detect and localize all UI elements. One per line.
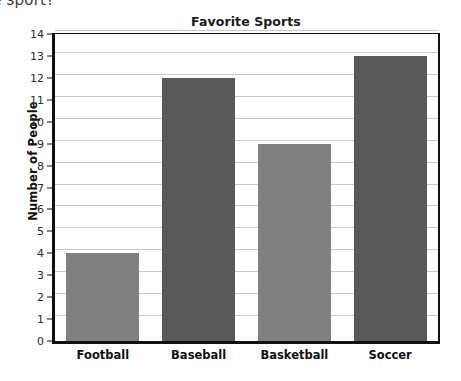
y-axis-tick-label: 1 [37, 313, 44, 326]
y-axis-tick-label: 2 [37, 291, 44, 304]
y-axis-tick-label: 14 [30, 28, 44, 41]
x-axis-category-label: Baseball [171, 348, 226, 362]
y-axis-tick-label: 6 [37, 203, 44, 216]
y-axis-tick-label: 8 [37, 159, 44, 172]
y-axis-ticks: 01234567891011121314 [0, 33, 52, 344]
bar [354, 56, 427, 341]
y-axis-tick-label: 11 [30, 93, 44, 106]
y-axis-tick-label: 3 [37, 269, 44, 282]
y-axis-tick-label: 13 [30, 49, 44, 62]
y-axis-tick-label: 5 [37, 225, 44, 238]
bar [162, 78, 235, 341]
bar-chart-figure: Favorite Sports Number of People 0123456… [0, 0, 461, 381]
gridline [55, 30, 438, 31]
bar [258, 144, 331, 341]
y-axis-tick-label: 12 [30, 71, 44, 84]
y-axis-tick-label: 9 [37, 137, 44, 150]
x-axis-category-label: Soccer [368, 348, 411, 362]
x-axis-category-label: Football [77, 348, 130, 362]
x-axis-labels: FootballBaseballBasketballSoccer [52, 348, 440, 372]
y-axis-tick-label: 10 [30, 115, 44, 128]
chart-title: Favorite Sports [52, 14, 440, 29]
x-axis-category-label: Basketball [260, 348, 328, 362]
y-axis-tick-label: 0 [37, 335, 44, 348]
y-axis-tick-label: 7 [37, 181, 44, 194]
bars-layer [52, 33, 440, 344]
bar [66, 253, 139, 341]
y-axis-tick-label: 4 [37, 247, 44, 260]
